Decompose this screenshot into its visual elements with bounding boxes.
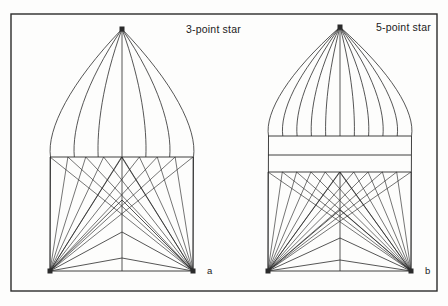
panel-b-key-label: b <box>425 265 430 276</box>
star-panel-diagram: 3-point star 5-point star a b <box>0 0 448 306</box>
right-corner-marker <box>191 269 196 274</box>
panel-a-key-label: a <box>207 265 213 276</box>
apex-marker <box>120 27 125 32</box>
figure-root: 3-point star 5-point star a b <box>0 0 448 306</box>
apex-marker <box>338 25 343 30</box>
panel-a-title: 3-point star <box>186 23 241 35</box>
right-corner-marker <box>409 269 414 274</box>
panel-b-title: 5-point star <box>376 21 431 33</box>
left-corner-marker <box>48 269 53 274</box>
left-corner-marker <box>266 269 271 274</box>
figure-background <box>0 0 448 306</box>
